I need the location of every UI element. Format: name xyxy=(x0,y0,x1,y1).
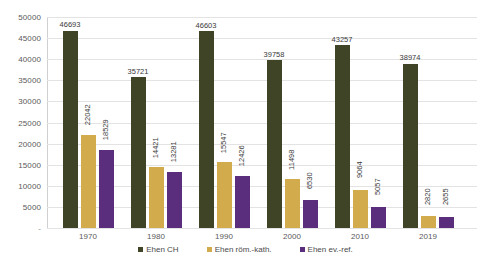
bar-column[interactable]: 39758 xyxy=(267,17,282,228)
bar-column[interactable]: 46603 xyxy=(199,17,214,228)
legend-label: Ehen CH xyxy=(146,245,178,254)
bar-value-label: 46603 xyxy=(196,22,217,30)
bar-value-label: 15547 xyxy=(220,132,228,153)
bar-value-label: 18529 xyxy=(102,120,110,141)
bar-column[interactable]: 38974 xyxy=(403,17,418,228)
bar-value-label: 39758 xyxy=(264,51,285,59)
bar-group-bars: 39758114986530 xyxy=(261,17,323,228)
bar-column[interactable]: 18529 xyxy=(99,17,114,228)
legend-item[interactable]: Ehen röm.-kath. xyxy=(207,245,272,254)
y-axis-tick-label: - xyxy=(38,224,41,233)
bar-column[interactable]: 2820 xyxy=(421,17,436,228)
bar-column[interactable]: 22042 xyxy=(81,17,96,228)
y-axis-tick-label: 15000 xyxy=(18,160,41,169)
bar[interactable] xyxy=(81,135,96,228)
bar-column[interactable]: 35721 xyxy=(131,17,146,228)
bar-value-label: 9064 xyxy=(356,162,364,179)
bar-column[interactable]: 5057 xyxy=(371,17,386,228)
bar-value-label: 13281 xyxy=(170,142,178,163)
bar-value-label: 22042 xyxy=(84,105,92,126)
y-axis-tick-label: 25000 xyxy=(18,118,41,127)
y-axis-tick-label: 50000 xyxy=(18,13,41,22)
bar-group: 3897428202655 xyxy=(397,17,459,228)
legend-label: Ehen ev.-ref. xyxy=(308,245,353,254)
bar-column[interactable]: 43257 xyxy=(335,17,350,228)
bar-column[interactable]: 9064 xyxy=(353,17,368,228)
bar[interactable] xyxy=(99,150,114,228)
bar-group: 466932204218529 xyxy=(57,17,119,228)
bar[interactable] xyxy=(149,167,164,228)
y-axis-tick-label: 20000 xyxy=(18,139,41,148)
bar[interactable] xyxy=(303,200,318,228)
bar-value-label: 2655 xyxy=(442,189,450,206)
x-axis-category-label: 1990 xyxy=(193,232,255,241)
y-axis-tick-label: 30000 xyxy=(18,97,41,106)
bar-value-label: 5057 xyxy=(374,179,382,196)
bar-column[interactable]: 14421 xyxy=(149,17,164,228)
legend-swatch-icon xyxy=(300,247,305,252)
x-axis-category-label: 2000 xyxy=(261,232,323,241)
bar-value-label: 14421 xyxy=(152,137,160,158)
bar-value-label: 43257 xyxy=(332,36,353,44)
chart-legend: Ehen CHEhen röm.-kath.Ehen ev.-ref. xyxy=(0,245,491,254)
bar[interactable] xyxy=(421,216,436,228)
bar-value-label: 11498 xyxy=(288,150,296,170)
legend-swatch-icon xyxy=(138,247,143,252)
plot-area: -500010000150002000025000300003500040000… xyxy=(47,17,477,228)
bar[interactable] xyxy=(217,162,232,228)
bar[interactable] xyxy=(167,172,182,228)
bar[interactable] xyxy=(131,77,146,228)
bar-group: 357211442113281 xyxy=(125,17,187,228)
bar-value-label: 2820 xyxy=(424,188,432,205)
y-axis-tick-label: 45000 xyxy=(18,34,41,43)
bar[interactable] xyxy=(335,45,350,228)
y-axis-tick-label: 35000 xyxy=(18,76,41,85)
bar[interactable] xyxy=(235,176,250,228)
x-axis-category-label: 2019 xyxy=(397,232,459,241)
bar[interactable] xyxy=(63,31,78,228)
bar-chart: -500010000150002000025000300003500040000… xyxy=(0,0,491,266)
bar-group-bars: 3897428202655 xyxy=(397,17,459,228)
bar-group-bars: 466031554712426 xyxy=(193,17,255,228)
bar-group-bars: 4325790645057 xyxy=(329,17,391,228)
bar[interactable] xyxy=(285,179,300,228)
bar-column[interactable]: 15547 xyxy=(217,17,232,228)
bar-group-bars: 466932204218529 xyxy=(57,17,119,228)
y-axis-tick-label: 10000 xyxy=(18,181,41,190)
bar-column[interactable]: 13281 xyxy=(167,17,182,228)
x-axis-category-label: 2010 xyxy=(329,232,391,241)
gridline xyxy=(47,228,477,229)
bar-value-label: 46693 xyxy=(60,21,81,29)
legend-item[interactable]: Ehen ev.-ref. xyxy=(300,245,353,254)
bar-group: 466031554712426 xyxy=(193,17,255,228)
legend-swatch-icon xyxy=(207,247,212,252)
bar[interactable] xyxy=(439,217,454,228)
legend-label: Ehen röm.-kath. xyxy=(215,245,272,254)
bar-column[interactable]: 12426 xyxy=(235,17,250,228)
bar-group: 4325790645057 xyxy=(329,17,391,228)
bar-column[interactable]: 46693 xyxy=(63,17,78,228)
y-axis-tick-label: 5000 xyxy=(23,202,41,211)
legend-item[interactable]: Ehen CH xyxy=(138,245,178,254)
x-axis-category-label: 1970 xyxy=(57,232,119,241)
x-axis-category-label: 1980 xyxy=(125,232,187,241)
bar[interactable] xyxy=(371,207,386,228)
bar-column[interactable]: 11498 xyxy=(285,17,300,228)
bar[interactable] xyxy=(267,60,282,228)
bar-value-label: 38974 xyxy=(400,54,421,62)
bar-column[interactable]: 2655 xyxy=(439,17,454,228)
bar-value-label: 6530 xyxy=(306,172,314,189)
bar-column[interactable]: 6530 xyxy=(303,17,318,228)
bar-group: 39758114986530 xyxy=(261,17,323,228)
bar[interactable] xyxy=(353,190,368,228)
bar-value-label: 35721 xyxy=(128,68,149,76)
bar[interactable] xyxy=(403,64,418,228)
bar[interactable] xyxy=(199,31,214,228)
bar-value-label: 12426 xyxy=(238,145,246,166)
y-axis-tick-label: 40000 xyxy=(18,55,41,64)
bar-group-bars: 357211442113281 xyxy=(125,17,187,228)
